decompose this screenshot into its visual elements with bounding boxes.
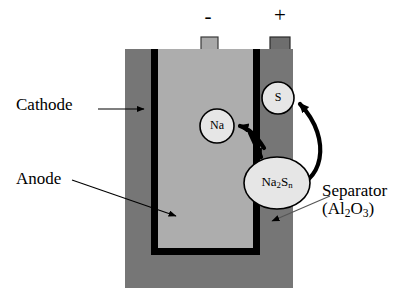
positive-terminal-post <box>270 37 290 50</box>
separator-formula-open: (Al <box>322 199 345 218</box>
sodium-species-label: Na <box>200 119 234 131</box>
polysulfide-na: Na <box>261 174 276 189</box>
polysulfide-species-label: Na2Sn <box>245 175 309 190</box>
separator-label-line1: Separator <box>322 182 387 200</box>
polysulfide-sub-n: n <box>288 180 292 190</box>
negative-terminal-sign: - <box>196 6 220 27</box>
positive-terminal-sign: + <box>268 5 292 26</box>
separator-formula-close: ) <box>369 199 375 218</box>
diagram-canvas: - + Cathode Anode Separator (Al2O3) Na S… <box>0 0 412 302</box>
anode-label: Anode <box>16 170 61 188</box>
separator-formula-o: O <box>350 199 362 218</box>
separator-label-formula: (Al2O3) <box>322 200 387 220</box>
sulfur-species-label: S <box>263 91 293 103</box>
negative-terminal-post <box>201 37 218 50</box>
anode-region <box>158 49 253 248</box>
separator-label: Separator (Al2O3) <box>322 182 387 220</box>
cathode-label: Cathode <box>16 96 73 114</box>
battery-cell-diagram <box>0 0 412 302</box>
